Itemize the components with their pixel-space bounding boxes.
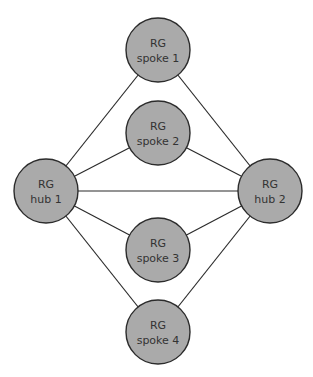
node-hub-2: RG hub 2 <box>238 159 302 223</box>
node-spoke-3: RG spoke 3 <box>126 218 190 282</box>
node-label-line2: spoke 3 <box>137 252 180 265</box>
node-label-line2: spoke 2 <box>137 135 180 148</box>
node-label-line1: RG <box>150 37 166 50</box>
node-label-line1: RG <box>262 178 278 191</box>
node-spoke-2: RG spoke 2 <box>126 101 190 165</box>
node-label-line2: hub 1 <box>30 193 61 206</box>
network-diagram: RG spoke 1 RG spoke 2 RG hub 1 RG hub 2 … <box>0 0 313 377</box>
edges <box>46 50 270 332</box>
node-spoke-4: RG spoke 4 <box>126 300 190 364</box>
node-label-line2: spoke 4 <box>137 334 180 347</box>
node-label-line1: RG <box>150 319 166 332</box>
node-label-line2: hub 2 <box>254 193 285 206</box>
node-label-line1: RG <box>150 237 166 250</box>
node-label-line1: RG <box>150 120 166 133</box>
node-label-line2: spoke 1 <box>137 52 180 65</box>
node-spoke-1: RG spoke 1 <box>126 18 190 82</box>
node-label-line1: RG <box>38 178 54 191</box>
node-hub-1: RG hub 1 <box>14 159 78 223</box>
